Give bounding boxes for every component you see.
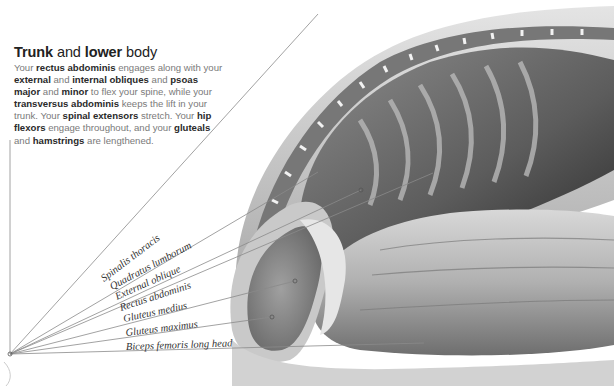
heading-and: and — [53, 44, 85, 60]
paragraph-text: Your — [14, 62, 36, 73]
heading-word-lower: lower — [85, 44, 122, 60]
muscle-term: transversus abdominis — [14, 98, 119, 109]
paragraph-text: and — [51, 74, 72, 85]
paragraph-text: engages along with your — [116, 62, 223, 73]
description-paragraph: Your rectus abdominis engages along with… — [14, 62, 224, 147]
muscle-term: rectus abdominis — [36, 62, 115, 73]
muscle-term: external — [14, 74, 51, 85]
muscle-term: spinal extensors — [63, 110, 139, 121]
paragraph-text: stretch. Your — [138, 110, 197, 121]
label-biceps-femoris-long-head: Biceps femoris long head — [126, 337, 234, 352]
muscle-term: hamstrings — [33, 135, 85, 146]
section-heading: Trunk and lower body — [14, 44, 224, 60]
heading-body: body — [122, 44, 157, 60]
heading-word-trunk: Trunk — [14, 44, 53, 60]
muscle-term: minor — [61, 86, 88, 97]
description-block: Trunk and lower body Your rectus abdomin… — [14, 44, 224, 147]
paragraph-text: are lengthened. — [84, 135, 153, 146]
paragraph-text: and — [40, 86, 61, 97]
paragraph-text: and — [14, 135, 33, 146]
paragraph-text: and — [149, 74, 170, 85]
muscle-term: gluteals — [174, 122, 210, 133]
muscle-term: internal obliques — [72, 74, 149, 85]
paragraph-text: engage throughout, and your — [45, 122, 174, 133]
paragraph-text: to flex your spine, while your — [88, 86, 212, 97]
